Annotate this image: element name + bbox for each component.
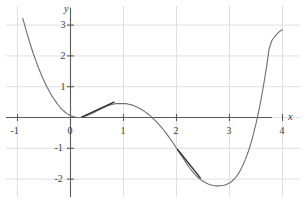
x-tick-label-1: 1: [121, 126, 126, 136]
x-tick-label-4: 4: [280, 126, 285, 136]
y-tick-label--2: -2: [55, 174, 63, 184]
x-tick-label-3: 3: [227, 126, 232, 136]
x-axis-label: x: [288, 112, 293, 123]
x-tick-label-2: 2: [174, 126, 179, 136]
series-f(x): [23, 18, 283, 186]
plot-canvas: [0, 0, 307, 200]
series-tangent-segment-left: [82, 102, 114, 117]
y-tick-label--1: -1: [55, 143, 63, 153]
y-tick-label-1: 1: [61, 82, 66, 92]
series-tangent-segment-right: [178, 150, 201, 178]
y-tick-label-3: 3: [61, 20, 66, 30]
x-tick-label-0: 0: [68, 126, 73, 136]
grid-vertical-lines: [18, 6, 283, 197]
data-series-layer: [23, 18, 283, 186]
y-axis-label: y: [64, 4, 69, 15]
grid-horizontal-lines: [6, 25, 300, 179]
plot-figure: -101234 321-1-2 x y: [0, 0, 307, 200]
x-tick-label--1: -1: [11, 126, 19, 136]
y-tick-label-2: 2: [61, 51, 66, 61]
